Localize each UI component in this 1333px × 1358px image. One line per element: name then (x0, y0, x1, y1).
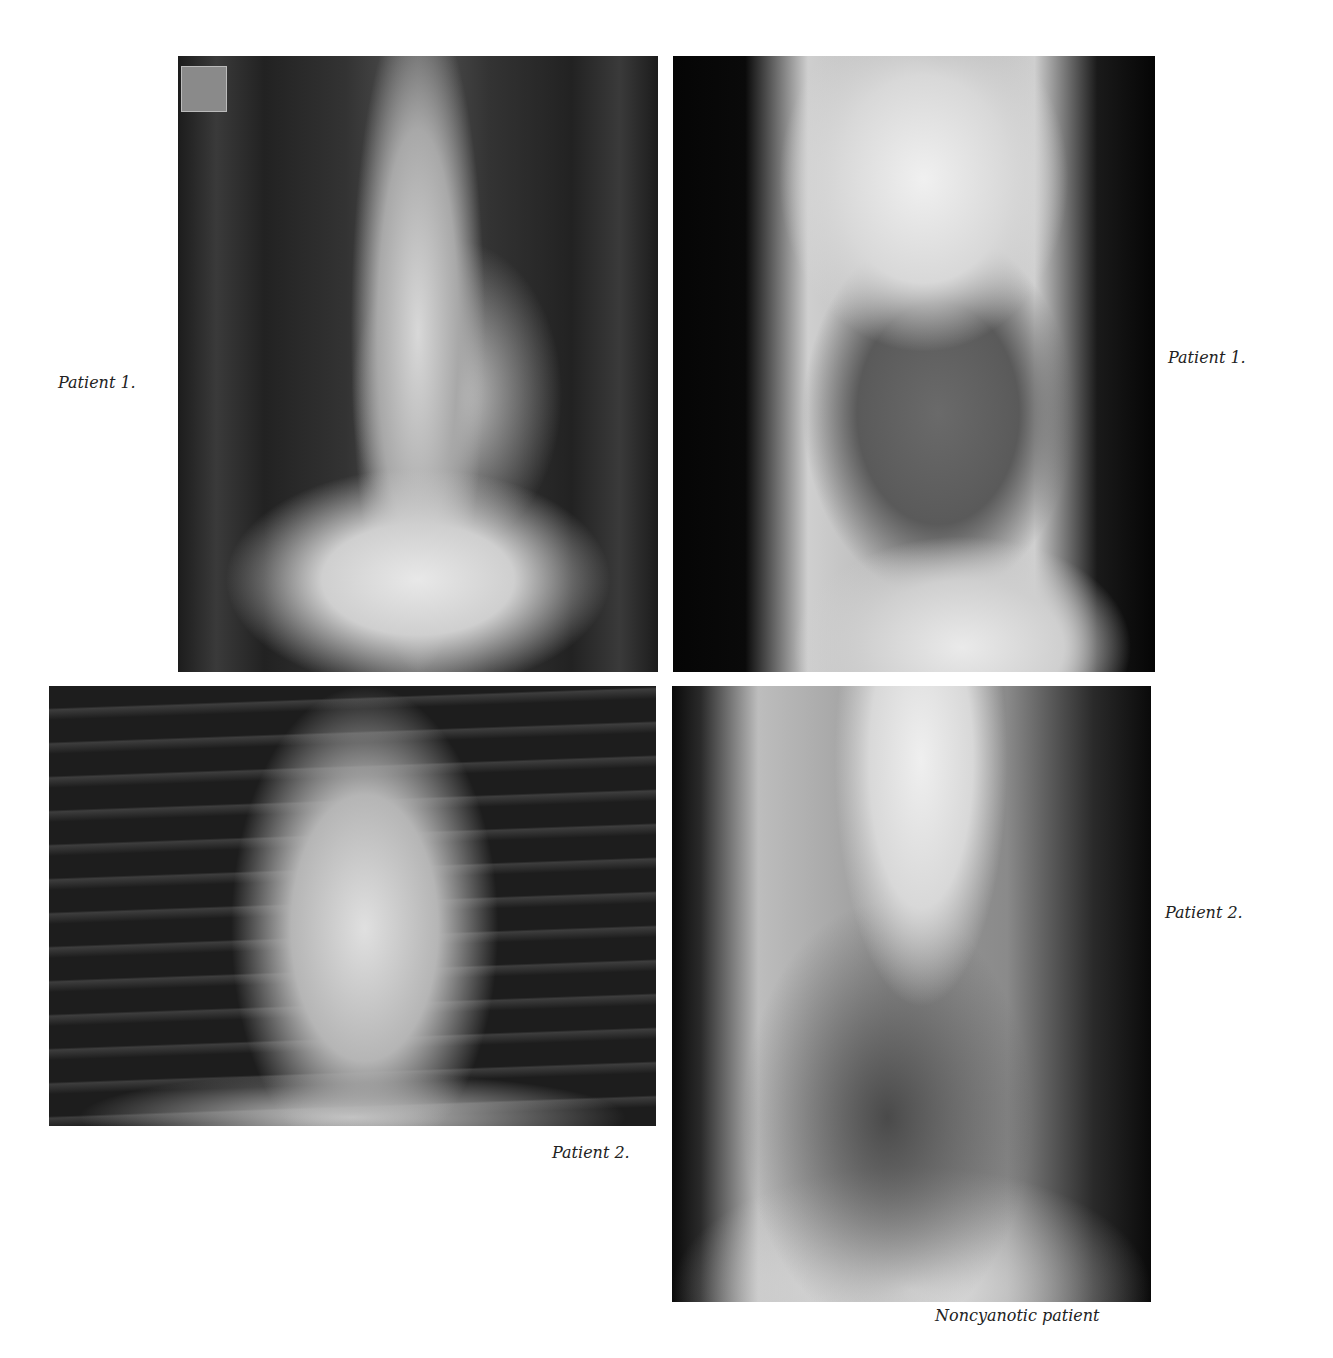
caption-patient2-lateral: Patient 2. (1165, 903, 1243, 922)
xray-patient2-frontal (49, 686, 656, 1126)
xray-patient1-lateral (673, 56, 1155, 672)
xray-patient2-lateral (672, 686, 1151, 1302)
xray-patient1-frontal (178, 56, 658, 672)
caption-noncyanotic: Noncyanotic patient (935, 1306, 1100, 1325)
film-marker-label (181, 66, 227, 112)
caption-patient2-frontal: Patient 2. (552, 1143, 630, 1162)
caption-patient1-frontal: Patient 1. (58, 373, 136, 392)
caption-patient1-lateral: Patient 1. (1168, 348, 1246, 367)
